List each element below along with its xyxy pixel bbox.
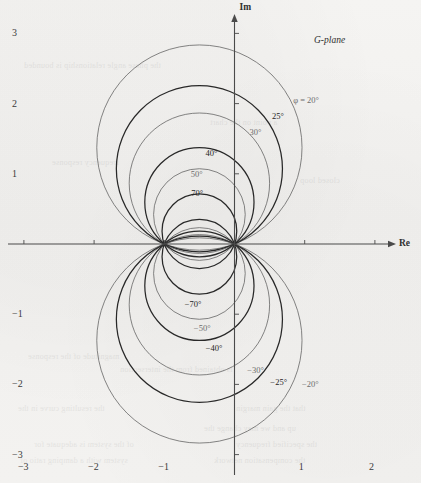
phase-label-neg50: −50° bbox=[194, 324, 211, 333]
y-tick-label-1: 2 bbox=[12, 99, 17, 109]
x-tick-label-3: 1 bbox=[299, 462, 304, 472]
phase-label-neg30: −30° bbox=[247, 366, 264, 375]
phase-label-neg20: −20° bbox=[302, 380, 319, 389]
phase-label-50: 50° bbox=[191, 170, 203, 179]
im-axis-arrow bbox=[231, 14, 237, 22]
axes-group bbox=[8, 14, 396, 475]
g-plane-label: G-plane bbox=[314, 36, 345, 46]
g-plane-phase-circle-chart bbox=[0, 0, 421, 483]
phase-label-30: 30° bbox=[250, 127, 262, 136]
y-tick-label-3: −1 bbox=[12, 309, 23, 319]
phase-label-40: 40° bbox=[205, 149, 217, 158]
y-tick-label-2: 1 bbox=[12, 169, 17, 179]
y-tick-label-4: −2 bbox=[12, 379, 23, 389]
phase-label-neg25: −25° bbox=[270, 377, 287, 386]
phase-label-70: 70° bbox=[191, 189, 203, 198]
phase-label-25: 25° bbox=[272, 112, 284, 121]
x-tick-label-4: 2 bbox=[369, 462, 374, 472]
re-axis-arrow bbox=[388, 241, 396, 247]
phase-label-20: φ = 20° bbox=[293, 96, 319, 105]
phase-label-neg40: −40° bbox=[206, 344, 223, 353]
im-axis-label: Im bbox=[240, 3, 252, 13]
phase-label-neg70: −70° bbox=[185, 299, 202, 308]
x-tick-label-0: −3 bbox=[18, 462, 29, 472]
phase-circle-30 bbox=[129, 113, 269, 253]
x-tick-label-1: −2 bbox=[88, 462, 99, 472]
x-tick-label-2: −1 bbox=[158, 462, 169, 472]
y-tick-label-0: 3 bbox=[12, 28, 17, 38]
y-tick-label-5: −3 bbox=[12, 450, 23, 460]
re-axis-label: Re bbox=[399, 239, 410, 249]
